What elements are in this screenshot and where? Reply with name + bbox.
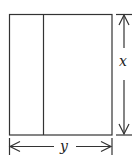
height-dimension — [116, 15, 132, 136]
outer-rectangle — [10, 15, 113, 136]
height-label: x — [119, 53, 127, 69]
diagram-canvas: x y — [0, 0, 139, 161]
width-label: y — [59, 138, 69, 154]
